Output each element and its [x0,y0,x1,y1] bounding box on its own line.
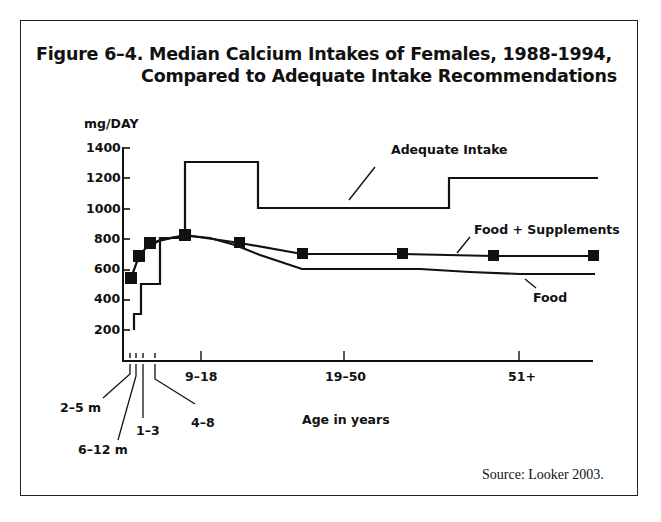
annotation-pointer [349,167,375,200]
x-callout-label: 6–12 m [78,442,128,457]
annotation-food: Food [533,290,567,305]
square-marker-icon [488,250,499,261]
annotation-pointer [525,279,536,288]
annotation-pointer [457,237,470,253]
annotation-food-supplements: Food + Supplements [474,222,620,237]
series-adequate-intake [134,162,598,330]
square-marker-icon [144,237,156,249]
x-tick-label: 9–18 [185,369,217,384]
square-marker-icon [397,248,408,259]
square-marker-icon [297,248,308,259]
x-tick-label: 19–50 [325,369,366,384]
square-marker-icon [133,250,145,262]
x-callout-label: 4–8 [191,415,215,430]
x-tick-label: 51+ [508,369,536,384]
square-marker-icon [179,229,191,241]
x-callout-label: 2–5 m [60,400,101,415]
source-note: Source: Looker 2003. [482,467,604,483]
x-callout-label: 1–3 [136,423,160,438]
x-axis-label: Age in years [302,412,390,427]
series-food-supplements [131,235,593,278]
square-marker-icon [125,272,137,284]
x-ticks [130,351,519,360]
square-marker-icon [588,250,599,261]
annotation-adequate-intake: Adequate Intake [391,142,508,157]
square-marker-icon [234,237,245,248]
y-ticks [123,148,130,330]
